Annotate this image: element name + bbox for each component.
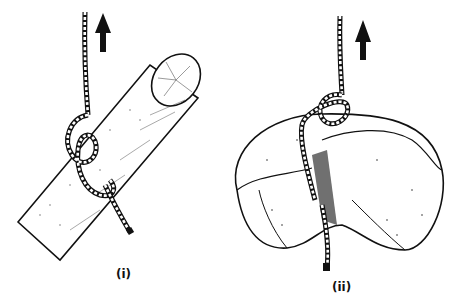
log <box>18 44 211 260</box>
up-arrow-icon <box>355 20 371 60</box>
caption-ii: (ii) <box>332 280 351 294</box>
sack-knot-illustration <box>227 0 454 299</box>
log-knot-illustration <box>0 0 227 299</box>
sack <box>235 114 443 250</box>
rope-end <box>323 263 330 271</box>
up-arrow-icon <box>95 13 111 52</box>
figure-log-knot: (i) <box>0 0 227 299</box>
caption-i: (i) <box>116 267 131 281</box>
figure-sack-knot: (ii) <box>227 0 454 299</box>
